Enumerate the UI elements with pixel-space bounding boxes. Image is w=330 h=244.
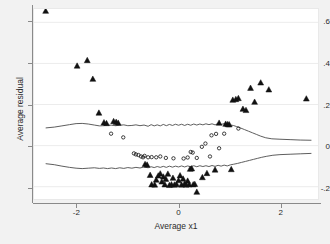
data-point-circle [191,151,194,154]
lower-confidence-band [46,153,312,168]
data-point-triangle [258,80,264,85]
x-tick-label: -2 [64,208,88,217]
y-tick-label: 0 [304,142,330,151]
y-tick-label: .2 [304,100,330,109]
x-axis-title: Average x1 [33,221,319,231]
y-tick-mark [28,146,33,147]
data-point-triangle [228,166,234,171]
data-point-triangle [252,99,258,104]
data-point-circle [210,134,213,137]
data-point-circle [146,156,149,159]
y-tick-label: .4 [304,59,330,68]
upper-confidence-band [46,123,312,140]
data-point-circle [186,156,189,159]
data-point-circle [164,156,167,159]
series-open-circles [109,127,240,160]
data-point-triangle [96,110,102,115]
y-tick-mark [28,105,33,106]
data-point-triangle [90,76,96,81]
data-point-circle [208,155,211,158]
scan-bleed-artifact [0,0,330,7]
x-tick-label: 0 [167,208,191,217]
data-point-circle [150,155,153,158]
plot-area [33,8,319,200]
data-point-triangle [84,57,90,62]
data-point-circle [155,156,158,159]
data-point-circle [159,155,162,158]
data-point-circle [195,156,198,159]
y-tick-label: -.2 [304,183,330,192]
data-point-triangle [194,189,200,194]
plot-canvas [34,9,318,199]
data-point-circle [214,132,217,135]
data-point-triangle [248,85,254,90]
data-point-triangle [170,175,176,180]
data-point-circle [172,157,175,160]
data-point-triangle [204,170,210,175]
data-point-triangle [216,120,222,125]
data-point-circle [109,132,112,135]
data-point-triangle [266,87,272,92]
data-point-triangle [147,172,153,177]
data-point-circle [222,132,225,135]
data-point-circle [204,142,207,145]
data-point-triangle [212,167,218,172]
data-point-triangle [177,173,183,178]
data-point-triangle [43,9,49,13]
x-tick-label: 2 [269,208,293,217]
figure-scatter-plot: -.20.2.4.6 -202 Average residual Average… [0,0,330,244]
data-point-circle [217,147,220,150]
data-point-circle [182,157,185,160]
y-tick-mark [28,63,33,64]
data-point-circle [122,136,125,139]
y-axis-title: Average residual [15,49,25,169]
y-tick-label: .6 [304,17,330,26]
data-point-triangle [165,171,171,176]
y-tick-mark [28,21,33,22]
y-tick-mark [28,188,33,189]
